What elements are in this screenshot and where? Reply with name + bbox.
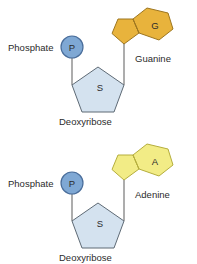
guanine-glyph: G (151, 20, 158, 31)
sugar-glyph: S (97, 82, 103, 93)
deoxyribose-label: Deoxyribose (59, 116, 112, 127)
sugar-glyph-bottom: S (97, 218, 103, 229)
deoxyribose-label-bottom: Deoxyribose (59, 252, 112, 263)
adenine-nucleotide-group: A Adenine S Deoxyribose P Phosphate (8, 144, 173, 263)
adenine-base: A (112, 144, 173, 180)
phosphate-group-top: P (61, 36, 83, 58)
phosphate-group-bottom: P (61, 172, 83, 194)
adenine-glyph: A (152, 156, 159, 167)
dna-nucleotide-diagram: G Guanine S Deoxyribose P Phosphate (0, 0, 197, 264)
deoxyribose-sugar-bottom: S (72, 203, 124, 248)
adenine-label: Adenine (135, 189, 170, 200)
phosphate-glyph: P (69, 42, 75, 53)
diagram-canvas: G Guanine S Deoxyribose P Phosphate (0, 0, 197, 264)
phosphate-label: Phosphate (8, 42, 53, 53)
phosphate-glyph-bottom: P (69, 178, 75, 189)
phosphate-label-bottom: Phosphate (8, 178, 53, 189)
deoxyribose-sugar-top: S (72, 67, 124, 112)
guanine-nucleotide-group: G Guanine S Deoxyribose P Phosphate (8, 8, 173, 127)
guanine-base: G (112, 8, 173, 44)
guanine-label: Guanine (135, 53, 171, 64)
